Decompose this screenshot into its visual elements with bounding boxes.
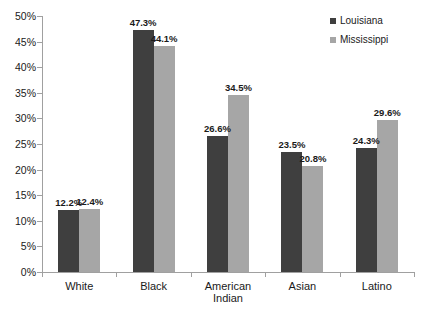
legend-label: Mississippi [340,35,388,45]
x-axis-category-label: White [42,280,116,292]
x-axis-line [42,272,414,273]
x-axis-category-label-line: Indian [191,292,265,304]
chart-legend: LouisianaMississippi [330,16,388,45]
x-axis-category-label-line: Latino [340,280,414,292]
bar-value-label: 24.3% [346,136,387,146]
bar-value-label: 34.5% [218,83,259,93]
x-axis-tick [340,272,341,277]
bar-latino-louisiana [356,148,377,272]
x-axis-tick [414,272,415,277]
x-axis-tick [191,272,192,277]
bar-value-label: 26.6% [197,124,238,134]
bar-asian-louisiana [281,152,302,272]
legend-swatch-louisiana [330,18,336,24]
bar-asian-mississippi [302,166,323,272]
bar-american-indian-louisiana [207,136,228,272]
y-axis-tick-label: 40% [2,62,36,73]
x-axis-tick [265,272,266,277]
bar-chart: 0%5%10%15%20%25%30%35%40%45%50% 12.2%12.… [0,0,421,315]
bar-white-louisiana [58,210,79,272]
y-axis-tick-label: 50% [2,11,36,22]
x-axis-category-label-line: White [42,280,116,292]
bar-value-label: 23.5% [271,140,312,150]
y-axis-labels: 0%5%10%15%20%25%30%35%40%45%50% [0,0,36,315]
bar-black-louisiana [133,30,154,272]
x-axis-category-label-line: American [191,280,265,292]
x-axis-tick [116,272,117,277]
legend-item-mississippi[interactable]: Mississippi [330,35,388,45]
bar-american-indian-mississippi [228,95,249,272]
y-axis-tick-label: 30% [2,113,36,124]
y-axis-tick-label: 15% [2,190,36,201]
bar-value-label: 20.8% [292,154,333,164]
legend-item-louisiana[interactable]: Louisiana [330,16,388,26]
bar-value-label: 44.1% [144,34,185,44]
x-axis-category-label: Latino [340,280,414,292]
y-axis-tick-label: 25% [2,139,36,150]
y-axis-tick-label: 5% [2,241,36,252]
x-axis-category-label: Asian [265,280,339,292]
legend-label: Louisiana [340,16,383,26]
x-axis-category-label-line: Black [116,280,190,292]
bar-black-mississippi [154,46,175,272]
y-axis-tick-label: 0% [2,267,36,278]
x-axis-tick [42,272,43,277]
x-axis-category-label: AmericanIndian [191,280,265,304]
y-axis-tick-label: 45% [2,36,36,47]
y-axis-tick-label: 35% [2,88,36,99]
bar-value-label: 12.4% [69,197,110,207]
y-axis-tick-label: 20% [2,164,36,175]
x-axis-category-label: Black [116,280,190,292]
bar-value-label: 29.6% [367,108,408,118]
x-axis-category-label-line: Asian [265,280,339,292]
y-axis-tick-label: 10% [2,216,36,227]
bar-value-label: 47.3% [123,18,164,28]
bar-white-mississippi [79,209,100,272]
legend-swatch-mississippi [330,37,336,43]
